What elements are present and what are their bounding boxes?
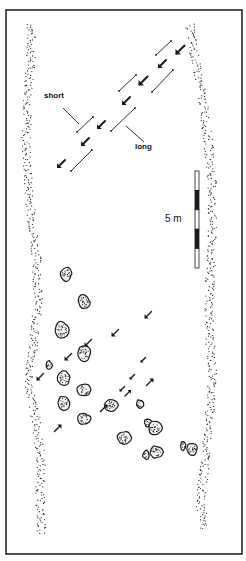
bank-stipple-dot <box>35 340 36 341</box>
bank-stipple-dot <box>198 503 199 504</box>
bank-stipple-dot <box>192 45 193 46</box>
bank-stipple-dot <box>204 444 205 445</box>
bank-stipple-dot <box>24 183 25 184</box>
bank-stipple-dot <box>198 480 199 481</box>
bank-stipple-dot <box>33 403 34 404</box>
bank-stipple-dot <box>28 182 29 183</box>
bank-stipple-dot <box>215 362 216 363</box>
bank-stipple-dot <box>41 483 42 484</box>
bank-stipple-dot <box>31 248 32 249</box>
bank-stipple-dot <box>193 35 194 36</box>
bank-stipple-dot <box>39 313 40 314</box>
bank-stipple-dot <box>35 253 36 254</box>
bank-stipple-dot <box>198 98 199 99</box>
bank-stipple-dot <box>37 331 38 332</box>
bank-stipple-dot <box>31 338 32 339</box>
bank-stipple-dot <box>41 494 42 495</box>
bank-stipple-dot <box>29 394 30 395</box>
boulder <box>55 321 69 338</box>
flow-arrow-icon <box>55 425 62 432</box>
bank-stipple-dot <box>207 453 208 454</box>
bank-stipple-dot <box>206 420 207 421</box>
bank-stipple-dot <box>210 199 211 200</box>
bank-stipple-dot <box>29 184 30 185</box>
bank-stipple-dot <box>205 278 206 279</box>
bank-stipple-dot <box>29 197 30 198</box>
bank-stipple-dot <box>212 241 213 242</box>
bank-stipple-dot <box>38 278 39 279</box>
bank-stipple-dot <box>195 79 196 80</box>
bank-stipple-dot <box>25 85 26 86</box>
bank-stipple-dot <box>30 94 31 95</box>
bank-stipple-dot <box>35 447 36 448</box>
bank-stipple-dot <box>201 85 202 86</box>
bank-stipple-dot <box>23 109 24 110</box>
bank-stipple-dot <box>213 249 214 250</box>
bank-stipple-dot <box>30 366 31 367</box>
bank-stipple-dot <box>213 411 214 412</box>
bank-stipple-dot <box>31 33 32 34</box>
bank-stipple-dot <box>36 430 37 431</box>
bank-stipple-dot <box>31 82 32 83</box>
bank-stipple-dot <box>206 414 207 415</box>
bank-stipple-dot <box>41 478 42 479</box>
bank-stipple-dot <box>35 304 36 305</box>
bank-stipple-dot <box>201 115 202 116</box>
bank-stipple-dot <box>208 187 209 188</box>
bank-stipple-dot <box>207 424 208 425</box>
bank-stipple-dot <box>37 523 38 524</box>
bank-stipple-dot <box>209 369 210 370</box>
bank-stipple-dot <box>213 339 214 340</box>
bank-stipple-dot <box>187 28 188 29</box>
bank-stipple-dot <box>26 120 27 121</box>
bank-stipple-dot <box>32 356 33 357</box>
bank-stipple-dot <box>212 356 213 357</box>
bank-stipple-dot <box>39 529 40 530</box>
bank-stipple-dot <box>35 486 36 487</box>
bank-stipple-dot <box>24 144 25 145</box>
bank-stipple-dot <box>28 189 29 190</box>
bank-stipple-dot <box>210 360 211 361</box>
bank-stipple-dot <box>207 163 208 164</box>
bank-stipple-dot <box>206 121 207 122</box>
bank-stipple-dot <box>207 358 208 359</box>
bank-stipple-dot <box>24 142 25 143</box>
bank-stipple-dot <box>40 470 41 471</box>
bank-stipple-dot <box>208 205 209 206</box>
bank-stipple-dot <box>30 115 31 116</box>
bank-stipple-dot <box>27 391 28 392</box>
bank-stipple-dot <box>206 447 207 448</box>
bank-stipple-dot <box>33 432 34 433</box>
bank-stipple-dot <box>205 126 206 127</box>
bank-stipple-dot <box>32 33 33 34</box>
bank-stipple-dot <box>29 346 30 347</box>
bank-stipple-dot <box>32 421 33 422</box>
bank-stipple-dot <box>23 140 24 141</box>
bank-stipple-dot <box>204 96 205 97</box>
bank-stipple-dot <box>194 37 195 38</box>
bank-stipple-dot <box>212 298 213 299</box>
bank-stipple-dot <box>34 248 35 249</box>
bank-stipple-dot <box>32 217 33 218</box>
bank-stipple-dot <box>211 433 212 434</box>
bank-stipple-dot <box>32 214 33 215</box>
bank-stipple-dot <box>34 209 35 210</box>
bank-stipple-dot <box>202 514 203 515</box>
bank-stipple-dot <box>43 494 44 495</box>
bank-stipple-dot <box>211 201 212 202</box>
bank-stipple-dot <box>23 107 24 108</box>
bank-stipple-dot <box>34 342 35 343</box>
bank-stipple-dot <box>213 276 214 277</box>
bank-stipple-dot <box>33 286 34 287</box>
stream-map-figure <box>0 0 246 561</box>
bank-stipple-dot <box>26 141 27 142</box>
bank-stipple-dot <box>30 334 31 335</box>
bank-stipple-dot <box>38 313 39 314</box>
bank-stipple-dot <box>30 40 31 41</box>
bank-stipple-dot <box>38 275 39 276</box>
scale-bar-segment <box>195 171 199 190</box>
bank-stipple-dot <box>200 528 201 529</box>
bank-stipple-dot <box>215 183 216 184</box>
bank-stipple-dot <box>194 27 195 28</box>
bank-stipple-dot <box>203 135 204 136</box>
